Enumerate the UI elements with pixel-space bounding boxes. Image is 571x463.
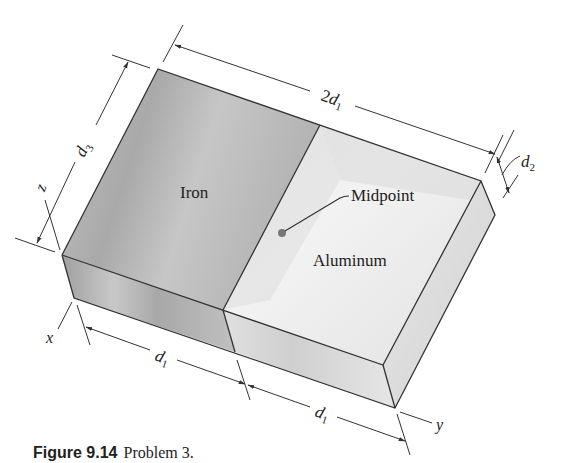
- svg-text:2d1: 2d1: [318, 86, 346, 113]
- svg-text:d1: d1: [152, 346, 172, 370]
- dim-d2-label: d2: [521, 152, 535, 173]
- midpoint-dot: [278, 229, 286, 237]
- axis-z-label: z: [31, 181, 50, 194]
- dim-2d1-label: 2d1: [318, 86, 346, 113]
- midpoint-label: Midpoint: [351, 186, 415, 205]
- svg-text:d1: d1: [312, 402, 332, 426]
- iron-label: Iron: [180, 183, 209, 202]
- composite-slab-diagram: Iron Midpoint Aluminum 2d1 d3 d2 d1 d1 z…: [0, 0, 571, 463]
- dim-d1-left-label: d1: [152, 346, 172, 370]
- svg-text:d3: d3: [71, 138, 96, 161]
- figure-caption: Figure 9.14Problem 3.: [33, 444, 194, 461]
- dim-d1-right-label: d1: [312, 402, 332, 426]
- dim-d3-label: d3: [71, 138, 96, 161]
- axis-y-label: y: [434, 416, 444, 434]
- aluminum-label: Aluminum: [313, 251, 387, 270]
- axis-x-label: x: [45, 329, 53, 346]
